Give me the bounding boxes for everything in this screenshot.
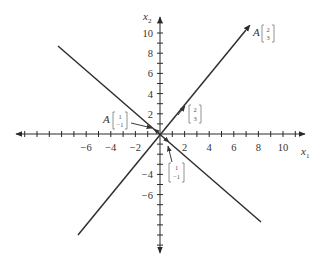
x-axis-label: x1 xyxy=(300,145,310,160)
y-tick-label: −4 xyxy=(142,169,154,180)
label-A-v-2-3: A 2 3 xyxy=(252,25,274,42)
svg-text:−1: −1 xyxy=(117,121,124,128)
label-v-1-neg1: 1 −1 xyxy=(169,163,184,182)
y-axis-tick-labels: 108642−4−6 xyxy=(142,28,154,201)
svg-text:A: A xyxy=(252,26,260,38)
svg-text:1: 1 xyxy=(118,113,121,120)
x-tick-label: −4 xyxy=(105,142,117,153)
x-axis-tick-labels: −6−4−2246810 xyxy=(81,142,289,153)
arrow-A-v-2-3 xyxy=(240,25,250,37)
y-tick-label: 6 xyxy=(148,68,153,79)
y-tick-label: 4 xyxy=(148,89,154,100)
svg-text:1: 1 xyxy=(175,164,178,171)
arrow-v-2-3 xyxy=(178,106,185,115)
y-tick-label: −6 xyxy=(142,190,153,201)
x-tick-label: −6 xyxy=(81,142,92,153)
x-tick-label: 6 xyxy=(231,142,236,153)
eigenvector-diagram: −6−4−2246810 108642−4−6 x1 x2 A 2 3 xyxy=(0,0,324,271)
y-tick-label: 8 xyxy=(148,48,153,59)
plot-canvas: −6−4−2246810 108642−4−6 x1 x2 A 2 3 xyxy=(0,0,324,271)
svg-text:2: 2 xyxy=(266,26,269,33)
x-tick-label: 8 xyxy=(256,142,261,153)
x-tick-label: −2 xyxy=(130,142,141,153)
svg-text:2: 2 xyxy=(193,106,196,113)
svg-text:3: 3 xyxy=(266,34,269,41)
x-tick-label: 10 xyxy=(278,142,289,153)
arrow-A-v-1-neg1 xyxy=(154,129,159,133)
x-tick-label: 4 xyxy=(207,142,213,153)
y-tick-label: 10 xyxy=(143,28,154,39)
svg-text:A: A xyxy=(102,113,110,125)
svg-text:−1: −1 xyxy=(173,173,180,180)
x-tick-label: 2 xyxy=(182,142,187,153)
label-v-2-3: 2 3 xyxy=(189,105,201,123)
arrow-v-1-neg1 xyxy=(163,137,169,142)
svg-text:3: 3 xyxy=(193,115,196,122)
leader-v-1-neg1 xyxy=(168,146,172,162)
y-axis-label: x2 xyxy=(142,10,152,25)
y-tick-label: 2 xyxy=(148,109,153,120)
label-A-v-1-neg1: A 1 −1 xyxy=(102,112,127,129)
